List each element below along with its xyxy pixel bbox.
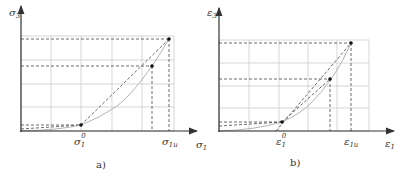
point-a-initial (79, 123, 83, 127)
point-a-ultimate (167, 37, 171, 41)
tick-label-a-ultimate: σ1u (162, 136, 178, 149)
guide-lines-a (21, 39, 169, 131)
y-axis-label-a: σ3 (9, 7, 21, 20)
panel-a: σ3 σ1 σ10 σ1u a) (9, 6, 207, 170)
curve-b (219, 43, 351, 131)
guide-lines-b (219, 43, 351, 131)
y-axis-label-b: ε3 (207, 7, 217, 20)
point-b-initial (280, 120, 284, 124)
figure: σ3 σ1 σ10 σ1u a) (0, 0, 408, 179)
tick-label-a-initial: σ10 (74, 132, 86, 149)
tick-label-b-initial: ε10 (276, 132, 287, 149)
grid-a (21, 36, 174, 131)
curve-a (21, 39, 169, 131)
point-a-mid (150, 64, 154, 68)
x-axis-label-a: σ1 (196, 139, 207, 152)
x-axis-label-b: ε1 (385, 138, 395, 151)
tick-label-b-ultimate: ε1u (344, 136, 359, 149)
point-b-ultimate (349, 41, 353, 45)
panel-b: ε3 ε1 ε10 ε1u b) (207, 7, 395, 168)
caption-b: b) (290, 157, 300, 168)
point-b-mid (328, 77, 332, 81)
caption-a: a) (96, 159, 106, 170)
